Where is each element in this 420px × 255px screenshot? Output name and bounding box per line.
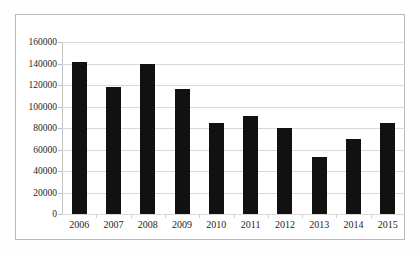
x-axis-tick-label: 2006 (62, 219, 96, 231)
x-axis-tick-label: 2008 (131, 219, 165, 231)
y-axis-tick-labels: 0200004000060000800001000001200001400001… (0, 0, 57, 255)
x-axis-tick-mark (199, 214, 200, 218)
y-axis-tick-label: 140000 (29, 59, 58, 69)
x-axis-tick-label: 2015 (371, 219, 405, 231)
bar (140, 64, 155, 215)
x-axis-tick-mark (268, 214, 269, 218)
y-axis-tick-mark (58, 107, 62, 108)
bar (106, 87, 121, 214)
x-axis-tick-label: 2014 (336, 219, 370, 231)
y-axis-tick-label: 0 (52, 209, 57, 219)
y-axis-tick-mark (58, 214, 62, 215)
y-axis-tick-label: 120000 (29, 80, 58, 90)
bar (243, 116, 258, 214)
y-axis-tick-label: 160000 (29, 37, 58, 47)
y-axis-tick-label: 100000 (29, 102, 58, 112)
y-axis-tick-label: 20000 (33, 188, 57, 198)
bar (175, 89, 190, 214)
x-axis-tick-label: 2007 (96, 219, 130, 231)
bar (312, 157, 327, 214)
plot-area (62, 42, 405, 214)
x-axis-tick-mark (96, 214, 97, 218)
gridline (62, 85, 405, 86)
y-axis-tick-mark (58, 171, 62, 172)
gridline (62, 64, 405, 65)
x-axis-tick-label: 2012 (268, 219, 302, 231)
x-axis-tick-label: 2011 (234, 219, 268, 231)
x-axis-tick-mark (336, 214, 337, 218)
x-axis-tick-label: 2010 (199, 219, 233, 231)
y-axis-tick-label: 80000 (33, 123, 57, 133)
y-axis-tick-mark (58, 150, 62, 151)
bar (277, 128, 292, 214)
y-axis-tick-mark (58, 128, 62, 129)
bar-chart-figure: 0200004000060000800001000001200001400001… (0, 0, 420, 255)
x-axis-tick-mark (371, 214, 372, 218)
y-axis-tick-mark (58, 85, 62, 86)
bar (346, 139, 361, 214)
x-axis-tick-mark (302, 214, 303, 218)
x-axis-tick-mark (234, 214, 235, 218)
x-axis-tick-label: 2009 (165, 219, 199, 231)
x-axis-tick-mark (131, 214, 132, 218)
y-axis-tick-label: 60000 (33, 145, 57, 155)
bar (72, 62, 87, 214)
x-axis-tick-label: 2013 (302, 219, 336, 231)
bar (380, 123, 395, 214)
y-axis-tick-mark (58, 42, 62, 43)
bar (209, 123, 224, 214)
y-axis-tick-mark (58, 64, 62, 65)
y-axis-tick-mark (58, 193, 62, 194)
gridline (62, 42, 405, 43)
y-axis-tick-label: 40000 (33, 166, 57, 176)
x-axis-tick-mark (165, 214, 166, 218)
